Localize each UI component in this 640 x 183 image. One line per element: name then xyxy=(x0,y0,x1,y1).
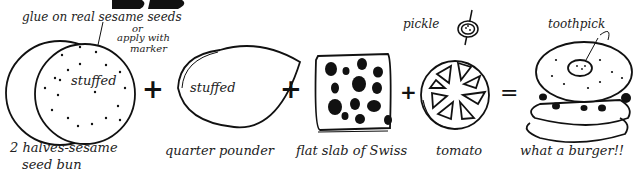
sesame-note-apply: apply with xyxy=(117,32,170,43)
plus-operator: + xyxy=(280,74,302,104)
equals-operator: = xyxy=(500,80,518,105)
tomato-label: tomato xyxy=(436,143,482,158)
cheese-drawing xyxy=(316,54,393,132)
tomato-drawing xyxy=(421,61,489,129)
plus-operator: + xyxy=(142,74,164,104)
pickle-drawing xyxy=(458,10,478,45)
patty-label: quarter pounder xyxy=(165,143,274,158)
plus-operator: + xyxy=(400,80,417,104)
patty-inner-text: stuffed xyxy=(190,80,236,95)
sesame-note-marker: marker xyxy=(130,43,167,54)
toothpick-label: toothpick xyxy=(548,17,605,31)
bun-label: 2 halves-sesame xyxy=(10,140,118,155)
sesame-note: glue on real sesame seeds xyxy=(22,10,182,24)
title-fragment xyxy=(112,0,184,9)
cheese-label: flat slab of Swiss xyxy=(296,143,407,158)
pickle-label: pickle xyxy=(403,17,439,31)
bun-label-line2: seed bun xyxy=(22,157,82,172)
burger-drawing xyxy=(527,31,632,142)
bun-inner-text: stuffed xyxy=(71,73,117,88)
burger-label: what a burger!! xyxy=(520,143,624,158)
